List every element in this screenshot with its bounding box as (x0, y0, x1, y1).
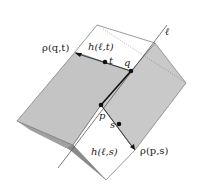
ridge-diagram: ℓ ρ(q,t) h(ℓ,t) t q p s h(ℓ,s) ρ(p,s) (0, 0, 198, 189)
point-p (99, 103, 104, 108)
label-s: s (110, 119, 115, 130)
label-h-lt: h(ℓ,t) (88, 41, 114, 52)
label-q: q (124, 57, 130, 68)
label-h-ls: h(ℓ,s) (91, 146, 118, 157)
point-t (103, 60, 108, 65)
label-p: p (99, 110, 106, 121)
label-l: ℓ (165, 26, 169, 37)
label-rho-qt: ρ(q,t) (42, 42, 69, 53)
point-s (117, 122, 122, 127)
point-q (129, 69, 134, 74)
label-rho-ps: ρ(p,s) (140, 145, 168, 156)
